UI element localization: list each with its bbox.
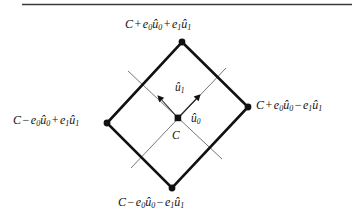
subscript-u1: 1 [75, 119, 79, 128]
figure-canvas: C+e0û0+e1û1 C−e0û0+e1û1 C+e0û0−e1û1 C−e0… [0, 0, 355, 222]
operator-2: + [50, 113, 60, 127]
axis-subscript-u0: 0 [197, 117, 201, 126]
vertex-dot-left [104, 120, 111, 127]
axis-label-u1: û1 [175, 82, 185, 94]
term-c: C [256, 98, 264, 112]
subscript-u1: 1 [318, 104, 322, 113]
center-point-marker [175, 115, 182, 122]
vertex-label-right: C+e0û0−e1û1 [256, 99, 322, 111]
axis-label-u0: û0 [191, 113, 201, 125]
operator-2: + [162, 17, 172, 31]
vertex-dot-right [245, 104, 252, 111]
term-c: C [125, 17, 133, 31]
term-c: C [13, 113, 21, 127]
vertex-label-top: C+e0û0+e1û1 [125, 18, 191, 30]
term-c: C [118, 195, 126, 209]
operator-2: − [155, 195, 165, 209]
subscript-u1: 1 [180, 201, 184, 210]
operator-2: − [293, 98, 303, 112]
axis-subscript-u1: 1 [181, 86, 185, 95]
operator-1: − [126, 195, 136, 209]
arrow-u1 [157, 95, 178, 118]
subscript-u1: 1 [187, 23, 191, 32]
vertex-dot-bottom [169, 185, 176, 192]
center-label: C [172, 130, 180, 142]
operator-1: − [21, 113, 31, 127]
operator-1: + [264, 98, 274, 112]
vertex-label-left: C−e0û0+e1û1 [13, 114, 79, 126]
vertex-label-bottom: C−e0û0−e1û1 [118, 196, 184, 208]
operator-1: + [133, 17, 143, 31]
vertex-dot-top [179, 39, 186, 46]
